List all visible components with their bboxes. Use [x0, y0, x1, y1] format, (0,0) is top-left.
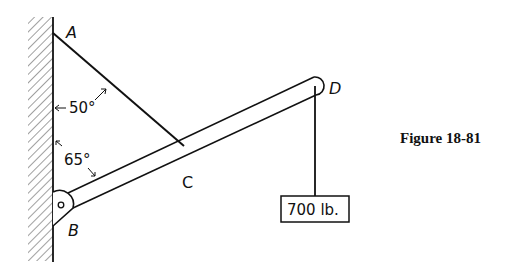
load-label: 700 lb.	[287, 201, 339, 219]
angle-65-marker: 65°	[56, 141, 95, 176]
point-a-label: A	[65, 23, 77, 42]
point-b-label: B	[68, 221, 79, 240]
boom-bd	[68, 77, 324, 208]
wall-hatching	[28, 17, 53, 261]
cable-ac	[53, 33, 184, 146]
point-c-label: C	[182, 173, 193, 192]
point-d-label: D	[329, 79, 341, 98]
statics-diagram: 700 lb. 50° 65° A B C D Figure 18-81	[0, 0, 527, 268]
figure-caption: Figure 18-81	[400, 130, 481, 146]
wall	[28, 17, 53, 262]
angle-50-marker: 50°	[55, 89, 106, 117]
angle-50-label: 50°	[69, 99, 96, 117]
angle-65-label: 65°	[64, 151, 91, 169]
load-box: 700 lb.	[281, 196, 349, 222]
